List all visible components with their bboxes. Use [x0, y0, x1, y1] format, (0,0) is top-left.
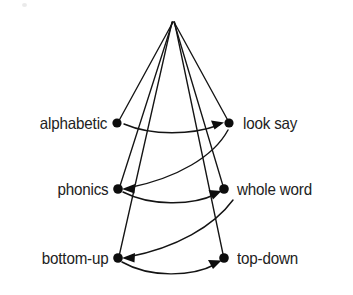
node-dot-alphabetic[interactable]	[112, 118, 121, 127]
curve-phonics-to-whole-word	[123, 192, 216, 203]
node-dot-whole-word[interactable]	[219, 184, 229, 194]
curved-edge-group	[122, 121, 233, 274]
curve-look-say-to-phonics	[128, 130, 228, 188]
node-dot-look-say[interactable]	[224, 118, 233, 127]
radial-edge-apex-whole-word	[174, 22, 224, 188]
node-dot-top-down[interactable]	[219, 253, 229, 263]
node-label-phonics: phonics	[57, 181, 108, 198]
node-label-bottom-up: bottom-up	[41, 250, 108, 267]
curve-bottom-up-to-top-down	[122, 262, 216, 274]
node-label-alphabetic: alphabetic	[40, 115, 107, 132]
node-dot-phonics[interactable]	[113, 184, 123, 194]
radial-edge-apex-top-down	[175, 22, 224, 257]
node-dot-bottom-up[interactable]	[113, 253, 123, 263]
node-label-whole-word: whole word	[237, 181, 312, 198]
node-label-top-down: top-down	[237, 250, 298, 267]
radial-edge-apex-bottom-up	[119, 22, 172, 257]
arrowhead-look-say	[211, 121, 224, 130]
arrowhead-bottom-up	[122, 253, 135, 263]
node-label-look-say: look say	[243, 115, 297, 132]
diagram-canvas: alphabetic look say phonics whole word b…	[0, 0, 353, 295]
radial-edge-apex-look-say	[174, 22, 229, 122]
